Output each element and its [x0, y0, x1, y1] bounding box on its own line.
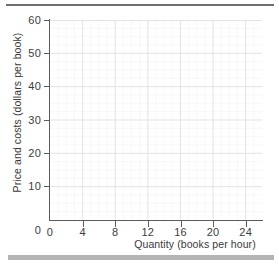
y-tick-40 — [44, 86, 50, 87]
x-tick-label-8: 8 — [103, 227, 127, 238]
grid-lines — [50, 20, 262, 220]
y-tick-10 — [44, 186, 50, 187]
x-tick-label-12: 12 — [136, 227, 160, 238]
y-tick-label-0: 0 — [7, 225, 41, 236]
y-tick-50 — [44, 53, 50, 54]
y-axis-title: Price and costs (dollars per book) — [12, 13, 23, 213]
y-tick-30 — [44, 120, 50, 121]
x-tick-label-16: 16 — [169, 227, 193, 238]
x-tick-label-4: 4 — [71, 227, 95, 238]
x-axis-line — [49, 220, 263, 221]
y-tick-label-0-wrap: 0 — [0, 225, 41, 236]
chart-figure: 60 50 40 30 20 10 0 0 4 8 12 16 20 24 Pr… — [0, 0, 279, 266]
x-tick-label-20: 20 — [201, 227, 225, 238]
x-tick-label-0: 0 — [38, 227, 62, 238]
bottom-divider-rule — [8, 255, 274, 260]
y-tick-20 — [44, 153, 50, 154]
x-tick-label-24: 24 — [234, 227, 258, 238]
y-tick-60 — [44, 20, 50, 21]
plot-area — [50, 20, 262, 220]
x-axis-title: Quantity (books per hour) — [120, 239, 270, 250]
